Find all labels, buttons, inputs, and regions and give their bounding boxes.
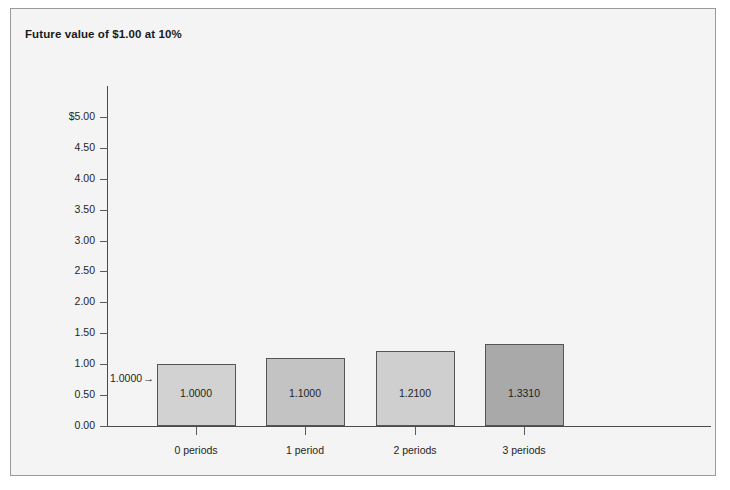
y-axis-tick-mark <box>100 364 108 365</box>
y-axis-tick: 4.50 <box>100 148 108 149</box>
y-axis-tick: 3.00 <box>100 241 108 242</box>
y-axis-tick-mark <box>100 148 108 149</box>
y-axis-tick: $5.00 <box>100 117 108 118</box>
bar-value-label: 1.1000 <box>267 387 344 399</box>
bar: 1.1000 <box>266 358 345 426</box>
y-axis-tick-label: 2.50 <box>75 264 95 276</box>
bar-value-label: 1.3310 <box>486 387 563 399</box>
y-axis-tick: 2.00 <box>100 302 108 303</box>
y-axis-tick-mark <box>100 302 108 303</box>
x-axis-tick-label: 3 periods <box>502 444 545 456</box>
x-axis-tick-mark <box>524 427 525 435</box>
y-axis-tick-mark <box>100 241 108 242</box>
y-axis-tick-label: 3.50 <box>75 203 95 215</box>
plot-area: 0.000.501.001.502.002.503.003.504.004.50… <box>11 9 717 477</box>
y-axis-line <box>107 86 108 427</box>
x-axis-line <box>107 426 711 427</box>
y-axis-tick-label: 0.50 <box>75 388 95 400</box>
y-axis-tick-mark <box>100 117 108 118</box>
y-axis-tick-mark <box>100 179 108 180</box>
y-axis-tick-mark <box>100 395 108 396</box>
x-axis-tick-label: 1 period <box>286 444 324 456</box>
y-axis-tick: 4.00 <box>100 179 108 180</box>
y-axis-tick: 0.00 <box>100 426 108 427</box>
y-axis-tick-label: 3.00 <box>75 234 95 246</box>
y-axis-tick-label: 2.00 <box>75 295 95 307</box>
y-axis-tick-label: 1.00 <box>75 357 95 369</box>
y-axis-tick: 3.50 <box>100 210 108 211</box>
y-axis-tick-label: 1.50 <box>75 326 95 338</box>
chart-figure: Future value of $1.00 at 10% 0.000.501.0… <box>10 8 716 476</box>
x-axis-tick-label: 0 periods <box>174 444 217 456</box>
x-axis-tick-mark <box>305 427 306 435</box>
x-axis-tick-label: 2 periods <box>393 444 436 456</box>
y-axis-tick-label: 4.50 <box>75 141 95 153</box>
bar: 1.3310 <box>485 344 564 426</box>
arrow-right-icon: → <box>143 372 154 384</box>
x-axis-tick-mark <box>415 427 416 435</box>
bar-value-label: 1.2100 <box>377 387 454 399</box>
y-axis-tick: 0.50 <box>100 395 108 396</box>
y-axis-tick-label: $5.00 <box>69 110 95 122</box>
bar-value-label: 1.0000 <box>158 387 235 399</box>
y-axis-tick-label: 0.00 <box>75 419 95 431</box>
y-axis-tick-label: 4.00 <box>75 172 95 184</box>
y-axis-tick-mark <box>100 210 108 211</box>
bar: 1.2100 <box>376 351 455 426</box>
y-axis-tick: 1.50 <box>100 333 108 334</box>
value-annotation: 1.0000→ <box>110 372 154 384</box>
y-axis-tick-mark <box>100 426 108 427</box>
y-axis-tick: 1.00 <box>100 364 108 365</box>
y-axis-tick: 2.50 <box>100 271 108 272</box>
y-axis-tick-mark <box>100 333 108 334</box>
y-axis-tick-mark <box>100 271 108 272</box>
x-axis-tick-mark <box>196 427 197 435</box>
value-annotation-label: 1.0000 <box>110 372 142 384</box>
bar: 1.0000 <box>157 364 236 426</box>
